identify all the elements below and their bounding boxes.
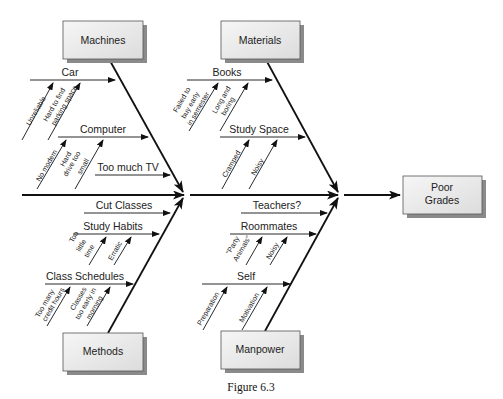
roommates-label: Roommates [241,220,298,232]
materials-box: Materials [221,21,304,63]
effect-label-line1: Poor [431,181,454,193]
machines-box: Machines [63,21,147,63]
books-label: Books [212,66,241,78]
class-schedules-label: Class Schedules [46,270,124,282]
effect-label-line2: Grades [425,194,459,206]
figure-caption: Figure 6.3 [227,381,275,394]
computer-sub-modem: No modem [34,148,59,183]
cause-books: Books Failed to buy early in semester Lo… [171,66,272,131]
space-sub-cramped: Cramped [220,149,243,179]
cause-teachers: Teachers? [241,199,327,213]
cause-study-habits: Study Habits Too little time Erratic [67,220,159,265]
methods-box: Methods [63,333,147,375]
machines-label: Machines [81,34,126,46]
study-habits-label: Study Habits [83,220,143,232]
manpower-label: Manpower [235,343,285,355]
cause-computer: Computer No modem Hard drive too small [34,123,148,189]
cause-roommates: Roommates "Party Animals" Noisy [224,220,316,265]
cut-classes-label: Cut Classes [96,199,153,211]
cause-self: Self Preparation Motivation [195,270,290,330]
fishbone-diagram: Machines Materials Methods Manpower Poor… [0,0,503,399]
car-label: Car [62,66,79,78]
study-sub-erratic: Erratic [106,239,124,262]
effect-box: Poor Grades [403,176,486,218]
tv-label: Too much TV [97,161,159,173]
self-sub-motivation: Motivation [237,291,261,324]
cause-class-schedules: Class Schedules Too many credit hours Cl… [33,270,133,326]
teachers-label: Teachers? [253,199,302,211]
space-sub-noisy: Noisy [249,157,266,177]
materials-label: Materials [239,34,282,46]
cause-study-space: Study Space Cramped Noisy [220,123,305,189]
methods-label: Methods [83,345,123,357]
computer-label: Computer [80,123,127,135]
study-space-label: Study Space [229,123,289,135]
cause-cut-classes: Cut Classes [84,199,170,213]
cause-tv: Too much TV [95,161,170,175]
self-label: Self [237,270,255,282]
manpower-box: Manpower [221,331,304,373]
